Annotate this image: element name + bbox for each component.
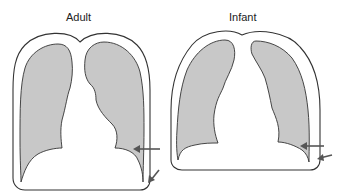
- diagram-canvas: [0, 0, 342, 195]
- infant-thorax: [171, 31, 332, 170]
- adult-thorax: [13, 33, 160, 190]
